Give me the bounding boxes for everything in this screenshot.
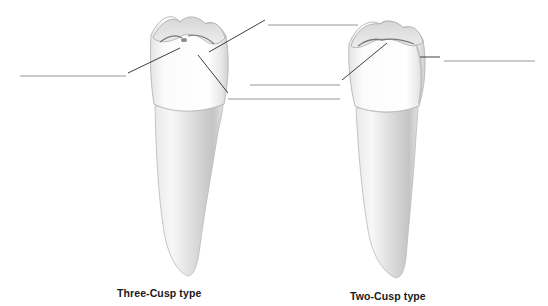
- caption-three-cusp: Three-Cusp type: [117, 287, 201, 299]
- diagram-canvas: [0, 0, 548, 306]
- caption-two-cusp: Two-Cusp type: [350, 290, 426, 302]
- tooth-two-cusp: [349, 21, 425, 278]
- central-pit-three-cusp: [181, 38, 187, 42]
- tooth-three-cusp: [150, 17, 228, 276]
- root-three-cusp: [155, 104, 223, 276]
- tooth-diagram: Three-Cusp type Two-Cusp type: [0, 0, 548, 306]
- label-blanks: [20, 25, 535, 99]
- root-two-cusp: [356, 106, 418, 278]
